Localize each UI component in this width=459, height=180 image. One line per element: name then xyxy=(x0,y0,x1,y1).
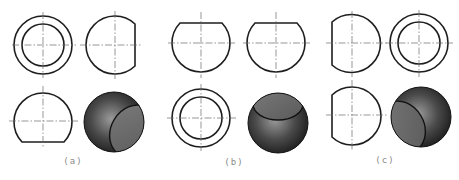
view-c-top-cut-left xyxy=(326,80,388,150)
panel-b xyxy=(167,12,310,153)
view-c-front-cut-left xyxy=(326,11,388,77)
view-b-shaded-sphere xyxy=(248,88,308,153)
view-c-side-circles xyxy=(386,10,453,77)
view-a-front-cut-bottom xyxy=(9,86,78,147)
view-a-side-cut-right xyxy=(80,11,142,79)
caption-a: (a) xyxy=(63,156,82,166)
view-c-shaded-sphere xyxy=(369,87,451,161)
caption-b: (b) xyxy=(224,157,243,167)
panel-c xyxy=(326,10,453,161)
caption-c: (c) xyxy=(375,155,394,165)
view-b-front-cut-top xyxy=(168,12,235,78)
view-a-top-circles xyxy=(12,12,76,78)
panel-a xyxy=(9,11,166,165)
view-a-shaded-sphere xyxy=(84,92,166,165)
drawing-canvas xyxy=(0,0,459,180)
view-b-top-circles xyxy=(167,84,236,151)
view-b-side-cut-top xyxy=(243,12,310,78)
